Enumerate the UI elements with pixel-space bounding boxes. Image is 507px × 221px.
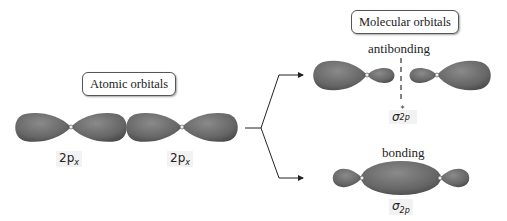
atomic-orbital-1 — [15, 113, 127, 142]
bonding-symbol: σ2p — [389, 199, 413, 215]
molecular-orbitals-title: Molecular orbitals — [351, 10, 459, 34]
orbital-diagram: Atomic orbitals Molecular orbitals antib… — [0, 0, 507, 221]
atomic-orbitals-title: Atomic orbitals — [82, 72, 176, 96]
antibonding-symbol: σ*2p — [389, 110, 417, 124]
atomic-orbital-2 — [126, 113, 238, 142]
branch-arrows — [245, 75, 303, 178]
antibonding-label: antibonding — [368, 41, 430, 57]
atomic-orbital-1-label: 2px — [56, 151, 82, 167]
antibonding-orbital — [313, 58, 491, 101]
atomic-orbital-2-label: 2px — [167, 151, 193, 167]
bonding-label: bonding — [382, 145, 425, 161]
bonding-orbital — [333, 161, 470, 195]
